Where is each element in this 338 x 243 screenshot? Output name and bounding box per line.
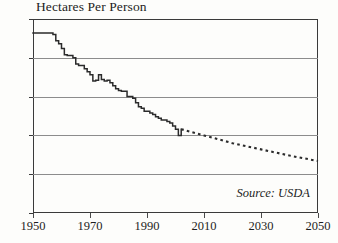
source-annotation: Source: USDA bbox=[237, 186, 310, 201]
x-axis-tick-mark bbox=[90, 213, 91, 218]
chart-figure: Hectares Per Person 0.250.200.150.100.05… bbox=[0, 0, 338, 243]
x-axis-tick-label: 2010 bbox=[192, 219, 217, 234]
x-axis-tick-label: 2050 bbox=[306, 219, 331, 234]
x-axis-tick-label: 1950 bbox=[21, 219, 46, 234]
x-axis-tick-mark bbox=[318, 213, 319, 218]
x-axis-tick-label: 1970 bbox=[78, 219, 103, 234]
historical-line bbox=[33, 33, 181, 135]
x-axis-tick-mark bbox=[33, 213, 34, 218]
plot-area: 0.250.200.150.100.050 195019701990201020… bbox=[33, 19, 318, 213]
x-axis-tick-mark bbox=[261, 213, 262, 218]
x-axis-tick-mark bbox=[204, 213, 205, 218]
projection-line bbox=[181, 129, 318, 161]
x-axis-tick-label: 2030 bbox=[249, 219, 274, 234]
x-axis-tick-mark bbox=[147, 213, 148, 218]
page-title: Hectares Per Person bbox=[36, 0, 147, 15]
data-series-layer bbox=[33, 19, 318, 213]
x-axis-tick-label: 1990 bbox=[135, 219, 160, 234]
